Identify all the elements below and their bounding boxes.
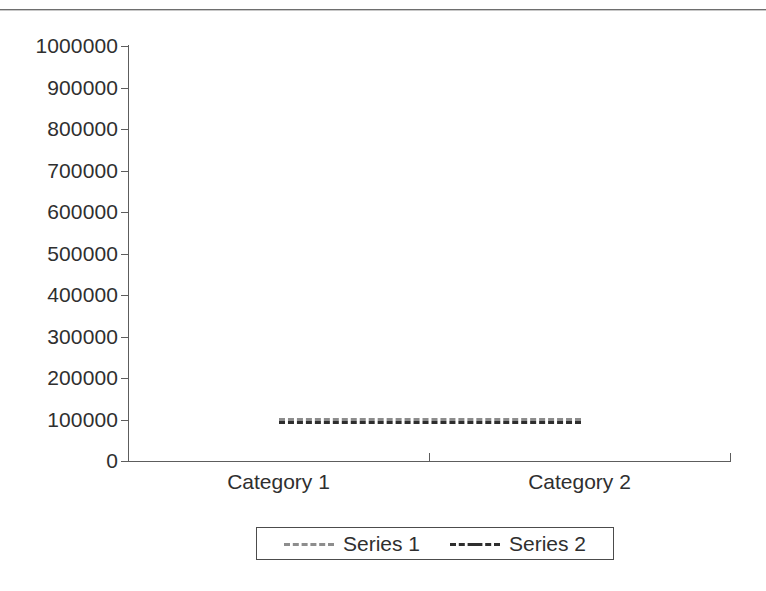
y-axis-tick <box>121 295 129 296</box>
y-axis-tick <box>121 378 129 379</box>
y-axis-label-text: 100000 <box>14 409 118 430</box>
y-axis-tick <box>121 88 129 89</box>
y-axis-label: 500000 <box>10 243 118 264</box>
y-axis-label-text: 500000 <box>14 243 118 264</box>
y-axis-tick <box>121 254 129 255</box>
y-axis-tick <box>121 129 129 130</box>
y-axis-label: 600000 <box>10 201 118 222</box>
x-axis-label-category-2: Category 2 <box>429 470 730 494</box>
x-axis-tick-start <box>128 453 129 462</box>
y-axis-label-text: 800000 <box>14 118 118 139</box>
y-axis-label-text: 700000 <box>14 160 118 181</box>
y-axis-label: 300000 <box>10 326 118 347</box>
y-axis-tick <box>121 46 129 47</box>
y-axis-tick <box>121 420 129 421</box>
y-axis-label-text: 1000000 <box>14 35 118 56</box>
y-axis-label: 900000 <box>10 77 118 98</box>
y-axis-tick <box>121 171 129 172</box>
y-axis-label-text: 300000 <box>14 326 118 347</box>
scanned-page: 1000000900000800000700000600000500000400… <box>0 0 766 591</box>
y-axis-label: 700000 <box>10 160 118 181</box>
y-axis-label-text: 400000 <box>14 284 118 305</box>
y-axis-label-text: 900000 <box>14 77 118 98</box>
y-axis-label: 800000 <box>10 118 118 139</box>
legend-entry-series-2[interactable]: Series 2 <box>450 533 586 554</box>
y-axis-label: 0 <box>10 450 118 471</box>
y-axis-tick <box>121 212 129 213</box>
x-axis-label-category-1: Category 1 <box>128 470 429 494</box>
legend-label-series-2: Series 2 <box>509 533 586 554</box>
y-axis-label: 400000 <box>10 284 118 305</box>
line-chart: 1000000900000800000700000600000500000400… <box>0 0 766 591</box>
x-axis-tick-end <box>730 453 731 462</box>
y-axis-label: 200000 <box>10 367 118 388</box>
legend-label-series-1: Series 1 <box>343 533 420 554</box>
y-axis-tick <box>121 337 129 338</box>
chart-legend: Series 1 Series 2 <box>256 527 614 560</box>
series-2-line <box>279 421 581 424</box>
y-axis-label: 1000000 <box>10 35 118 56</box>
legend-swatch-series-2-icon <box>450 538 500 550</box>
y-axis-label: 100000 <box>10 409 118 430</box>
y-axis-label-text: 600000 <box>14 201 118 222</box>
y-axis-label-text: 0 <box>14 450 118 471</box>
legend-swatch-series-1-icon <box>284 538 334 550</box>
y-axis-label-text: 200000 <box>14 367 118 388</box>
legend-entry-series-1[interactable]: Series 1 <box>284 533 420 554</box>
x-axis-tick-mid <box>429 453 430 462</box>
